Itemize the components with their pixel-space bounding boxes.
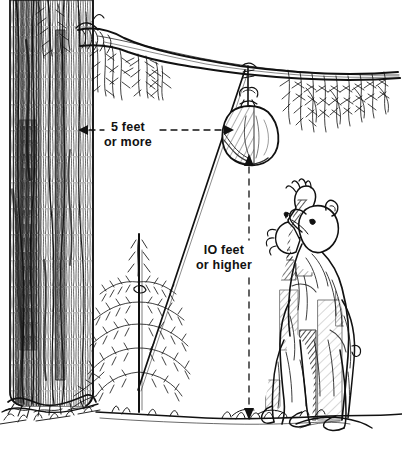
dimension-label-5-feet-line1: 5 feet (104, 120, 152, 135)
dimension-label-10-feet: IO feet or higher (196, 243, 252, 273)
dimension-label-10-feet-line2: or higher (196, 258, 252, 273)
dimension-label-5-feet: 5 feet or more (104, 120, 152, 150)
illustration-canvas: 5 feet or more IO feet or higher (0, 0, 402, 454)
tree-trunk (0, 0, 100, 424)
bear-bag-diagram-artwork (0, 0, 402, 454)
dimension-label-5-feet-line2: or more (104, 135, 152, 150)
dimension-label-10-feet-line1: IO feet (196, 243, 252, 258)
